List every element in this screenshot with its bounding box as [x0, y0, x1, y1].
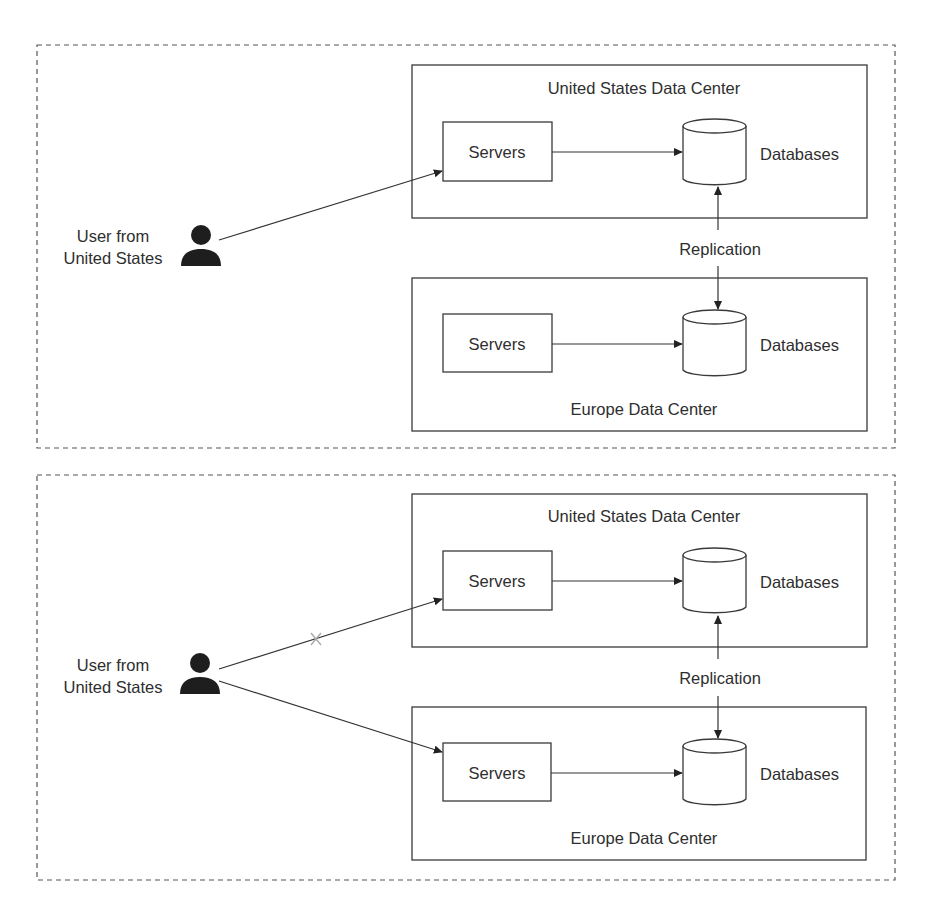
us-data-center: United States Data Center Servers Databa…: [412, 65, 867, 218]
us-dc-title: United States Data Center: [548, 79, 741, 97]
panel-us-failover: User from United States United States Da…: [37, 475, 895, 880]
eu-db-label: Databases: [760, 336, 839, 354]
us-data-center: United States Data Center Servers Databa…: [412, 494, 867, 647]
failed-x-icon: [311, 633, 321, 645]
eu-servers-label: Servers: [469, 764, 526, 782]
user-label-line1: User from: [77, 227, 149, 245]
database-icon: [683, 310, 746, 376]
database-icon: [683, 119, 746, 185]
eu-dc-title: Europe Data Center: [571, 400, 718, 418]
us-db-label: Databases: [760, 573, 839, 591]
user-us: User from United States: [63, 225, 221, 267]
us-servers-label: Servers: [469, 143, 526, 161]
user-label-line2: United States: [63, 678, 162, 696]
user-to-eu-servers-arrow: [219, 681, 442, 752]
replication-label: Replication: [679, 669, 761, 687]
panel-border: [37, 45, 895, 448]
user-to-us-servers-arrow: [219, 171, 442, 240]
panel-normal-operation: User from United States United States Da…: [37, 45, 895, 448]
user-us: User from United States: [63, 653, 220, 696]
user-label-line2: United States: [63, 249, 162, 267]
europe-data-center: Servers Databases Europe Data Center: [412, 707, 866, 860]
eu-db-label: Databases: [760, 765, 839, 783]
panel-border: [37, 475, 895, 880]
person-icon: [180, 653, 220, 694]
us-servers-label: Servers: [469, 572, 526, 590]
database-icon: [683, 548, 746, 613]
person-icon: [181, 225, 221, 266]
us-db-label: Databases: [760, 145, 839, 163]
eu-servers-label: Servers: [469, 335, 526, 353]
us-dc-title: United States Data Center: [548, 507, 741, 525]
database-icon: [683, 739, 746, 805]
eu-dc-title: Europe Data Center: [571, 829, 718, 847]
user-to-us-servers-arrow-failed: [219, 599, 442, 669]
europe-data-center: Servers Databases Europe Data Center: [412, 278, 867, 431]
replication-label: Replication: [679, 240, 761, 258]
user-label-line1: User from: [77, 656, 149, 674]
